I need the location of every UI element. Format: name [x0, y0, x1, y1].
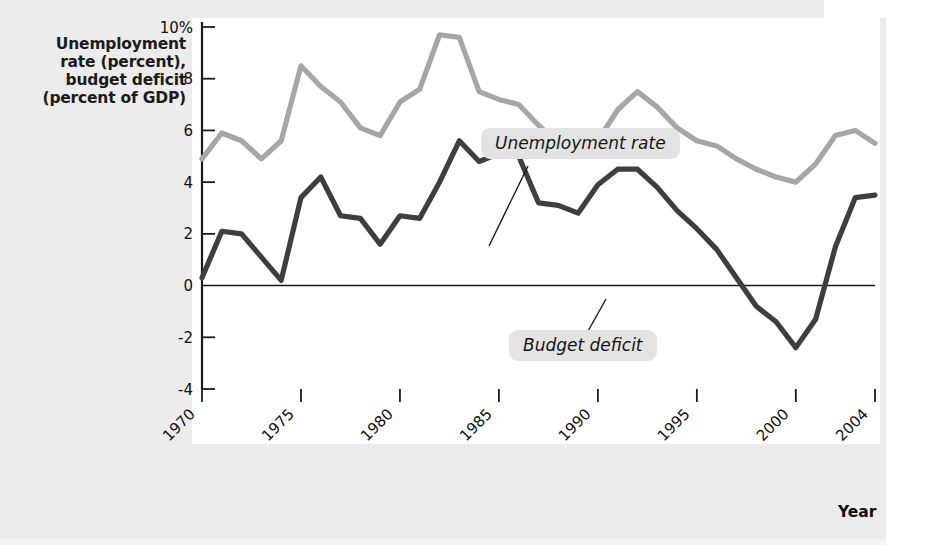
y-axis-title: Unemployment rate (percent), budget defi…: [0, 36, 186, 108]
series-line-budget-deficit: [202, 141, 875, 348]
chart-figure: Unemployment rate (percent), budget defi…: [0, 0, 944, 545]
callout-leader-unemployment: [489, 166, 528, 246]
page-bottom-strip: [0, 539, 886, 545]
page-right-margin: [886, 0, 944, 545]
callout-budget-deficit: Budget deficit: [509, 330, 657, 361]
callout-unemployment-rate: Unemployment rate: [481, 128, 680, 159]
series-line-unemployment-rate: [202, 35, 875, 182]
y-axis-ticks: [202, 27, 215, 389]
x-axis-ticks: [202, 389, 875, 402]
y-tick-label: 10%: [160, 19, 193, 37]
x-axis-title: Year: [838, 503, 876, 521]
y-tick-label: -4: [178, 381, 193, 399]
line-chart-svg: [192, 18, 880, 444]
y-tick-label: -2: [178, 329, 193, 347]
page-top-notch: [824, 0, 886, 18]
plot-area: 10%86420-2-4 197019751980198519901995200…: [192, 18, 880, 444]
